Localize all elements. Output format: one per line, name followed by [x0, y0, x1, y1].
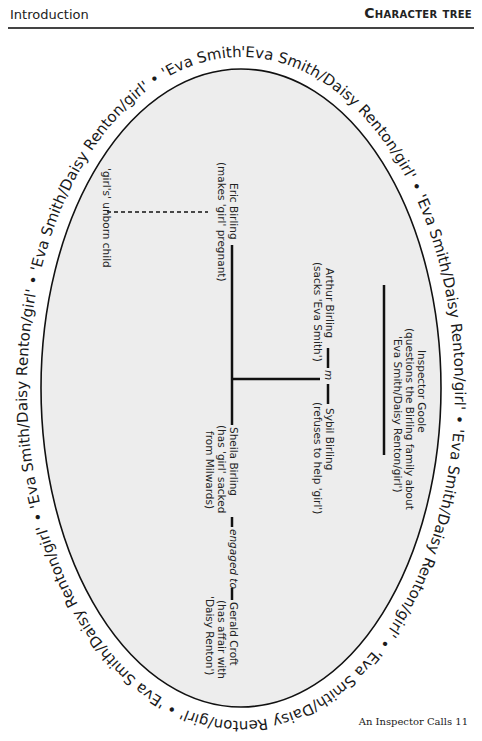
marriage-symbol: m — [323, 370, 335, 380]
sheila-name: Sheila Birling — [228, 427, 240, 513]
inspector-node: Inspector Goole (questions the Birling f… — [392, 328, 428, 510]
gerald-name: Gerald Croft — [228, 602, 240, 679]
child-name: 'girl's' unborn child — [101, 168, 113, 268]
inspector-name: Inspector Goole — [416, 328, 428, 510]
eric-name: Eric Birling — [228, 180, 240, 282]
marriage-label: m — [323, 370, 335, 380]
gerald-desc-1: (has affair with — [216, 600, 228, 679]
inspector-desc-2: 'Eva Smith/Daisy Renton/girl') — [392, 328, 404, 510]
page-footer: An Inspector Calls 11 — [359, 716, 468, 727]
gerald-node: Gerald Croft (has affair with 'Daisy Ren… — [204, 602, 240, 679]
eric-desc: (makes 'girl' pregnant) — [216, 162, 228, 282]
sheila-desc-2: from Milwards) — [204, 431, 216, 513]
arthur-desc: (sacks 'Eva Smith') — [312, 262, 324, 362]
victim-ellipse — [41, 69, 441, 707]
arthur-name: Arthur Birling — [324, 268, 336, 362]
sybil-desc: (refuses to help 'girl') — [312, 402, 324, 514]
sybil-node: Sybil Birling (refuses to help 'girl') — [312, 408, 336, 514]
eric-node: Eric Birling (makes 'girl' pregnant) — [216, 180, 240, 282]
child-node: 'girl's' unborn child — [101, 168, 113, 268]
gerald-desc-2: 'Daisy Renton') — [204, 596, 216, 679]
arthur-node: Arthur Birling (sacks 'Eva Smith') — [312, 268, 336, 362]
engaged-text: engaged to — [228, 529, 240, 589]
engaged-label: engaged to — [228, 529, 240, 589]
inspector-desc-1: (questions the Birling family about — [404, 328, 416, 510]
sheila-desc-1: (has 'girl' sacked — [216, 425, 228, 513]
sybil-name: Sybil Birling — [324, 408, 336, 514]
sheila-node: Sheila Birling (has 'girl' sacked from M… — [204, 427, 240, 513]
